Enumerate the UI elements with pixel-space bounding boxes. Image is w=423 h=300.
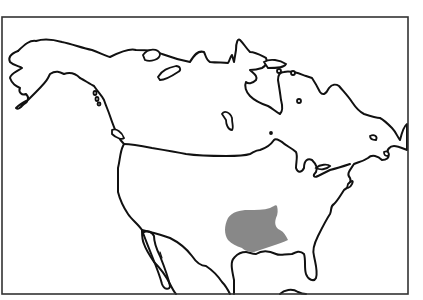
panhandle-islet-2 (96, 97, 99, 101)
arctic-islet-1 (277, 69, 281, 73)
north-america-map (0, 0, 423, 300)
hudson-bay-islet (297, 99, 301, 103)
panhandle-islet-3 (98, 103, 101, 106)
lake-erie (316, 165, 330, 170)
nova-scotia-islet (384, 151, 389, 156)
arctic-islet-2 (291, 71, 295, 75)
map-container (0, 0, 423, 300)
panhandle-islet-1 (94, 91, 97, 95)
newfoundland (370, 135, 377, 140)
great-lakes-islet (270, 132, 272, 134)
victoria-island-small (143, 50, 160, 61)
